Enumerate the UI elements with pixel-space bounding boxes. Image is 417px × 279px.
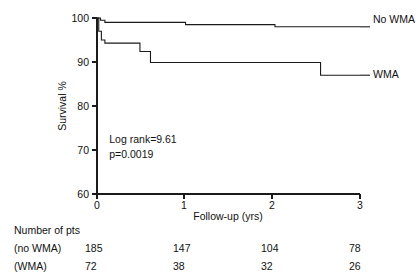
annotation-log-rank: Log rank=9.61 [109, 133, 177, 145]
survival-curve-figure: 100 90 80 70 60 0 1 2 3 Follow-up (yrs) … [0, 0, 417, 279]
risk-table-heading: Number of pts [14, 224, 80, 236]
x-tick-label-2: 2 [269, 199, 275, 211]
x-tick-label-1: 1 [181, 199, 187, 211]
risk-value-wma-1: 38 [173, 260, 185, 272]
annotation-p-value: p=0.0019 [109, 148, 153, 160]
y-tick-label-80: 80 [77, 100, 89, 112]
kaplan-meier-plot: 100 90 80 70 60 0 1 2 3 Follow-up (yrs) … [0, 0, 417, 279]
y-tick-label-70: 70 [77, 144, 89, 156]
risk-value-wma-2: 32 [261, 260, 273, 272]
risk-value-no-wma-0: 185 [85, 242, 103, 254]
risk-row-label-wma: (WMA) [14, 260, 47, 272]
y-tick-label-100: 100 [71, 12, 89, 24]
x-axis-title: Follow-up (yrs) [193, 210, 262, 222]
y-tick-label-60: 60 [77, 188, 89, 200]
series-label-wma: WMA [373, 68, 399, 80]
risk-value-no-wma-3: 78 [349, 242, 361, 254]
curve-no-wma [97, 18, 360, 27]
x-tick-label-0: 0 [94, 199, 100, 211]
risk-value-wma-0: 72 [85, 260, 97, 272]
risk-value-wma-3: 26 [349, 260, 361, 272]
x-tick-label-3: 3 [357, 199, 363, 211]
y-axis-title: Survival % [56, 81, 68, 131]
risk-value-no-wma-1: 147 [173, 242, 191, 254]
y-tick-label-90: 90 [77, 56, 89, 68]
series-label-no-wma: No WMA [373, 13, 415, 25]
risk-row-label-no-wma: (no WMA) [14, 242, 61, 254]
risk-value-no-wma-2: 104 [261, 242, 279, 254]
